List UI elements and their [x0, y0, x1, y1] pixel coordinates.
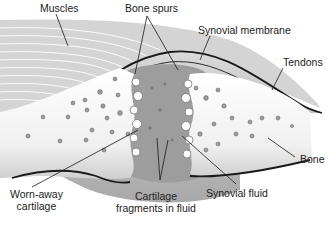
label-worn-away-cartilage: Worn-away cartilage — [10, 188, 63, 212]
label-cartilage-fragments: Cartilage fragments in fluid — [116, 190, 196, 214]
label-muscles: Muscles — [40, 2, 79, 14]
label-bone-spurs: Bone spurs — [125, 2, 178, 14]
label-bone: Bone — [300, 153, 325, 165]
label-synovial-membrane: Synovial membrane — [198, 24, 291, 36]
label-synovial-fluid: Synovial fluid — [206, 187, 268, 199]
label-tendons: Tendons — [283, 56, 323, 68]
joint-diagram: Muscles Bone spurs Synovial membrane Ten… — [0, 0, 327, 226]
